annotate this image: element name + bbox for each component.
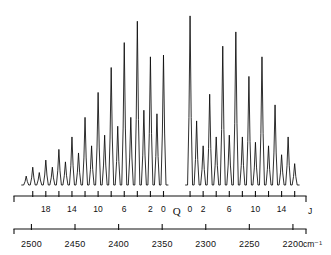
- j-label-p-18: 18: [41, 204, 51, 214]
- wavenumber-label-2400: 2400: [108, 239, 129, 249]
- j-label-p-14: 14: [67, 204, 77, 214]
- wavenumber-label-2500: 2500: [21, 239, 42, 249]
- j-axis-tick-labels: 1814106200261014: [41, 204, 287, 214]
- j-label-p-2: 2: [148, 204, 153, 214]
- j-label-r-10: 10: [251, 204, 261, 214]
- wavenumber-label-2200: 2200: [283, 239, 304, 249]
- wavenumber-unit-label: cm⁻¹: [303, 239, 322, 249]
- j-label-r-6: 6: [227, 204, 232, 214]
- wavenumber-label-2450: 2450: [65, 239, 86, 249]
- j-label-p-6: 6: [122, 204, 127, 214]
- wavenumber-label-2250: 2250: [239, 239, 260, 249]
- spectrum-trace-group: [22, 16, 299, 185]
- r-branch-trace: [186, 16, 300, 185]
- wavenumber-axis-tick-labels: 2500245024002350230022502200: [21, 239, 303, 249]
- j-axis-unit-label: J: [308, 206, 312, 216]
- j-label-r-14: 14: [277, 204, 287, 214]
- spectrum-figure: 1814106200261014 Q J 2500245024002350230…: [0, 0, 331, 255]
- j-label-r-0: 0: [188, 204, 193, 214]
- j-axis: 1814106200261014 Q J: [14, 191, 312, 217]
- j-label-p-10: 10: [93, 204, 103, 214]
- q-branch-label: Q: [173, 205, 181, 217]
- p-branch-trace: [22, 21, 168, 185]
- spectrum-svg: 1814106200261014 Q J 2500245024002350230…: [0, 0, 331, 255]
- wavenumber-label-2350: 2350: [152, 239, 173, 249]
- wavenumber-label-2300: 2300: [195, 239, 216, 249]
- wavenumber-axis: 2500245024002350230022502200 cm⁻¹: [14, 224, 322, 249]
- j-label-p-0: 0: [161, 204, 166, 214]
- j-label-r-2: 2: [201, 204, 206, 214]
